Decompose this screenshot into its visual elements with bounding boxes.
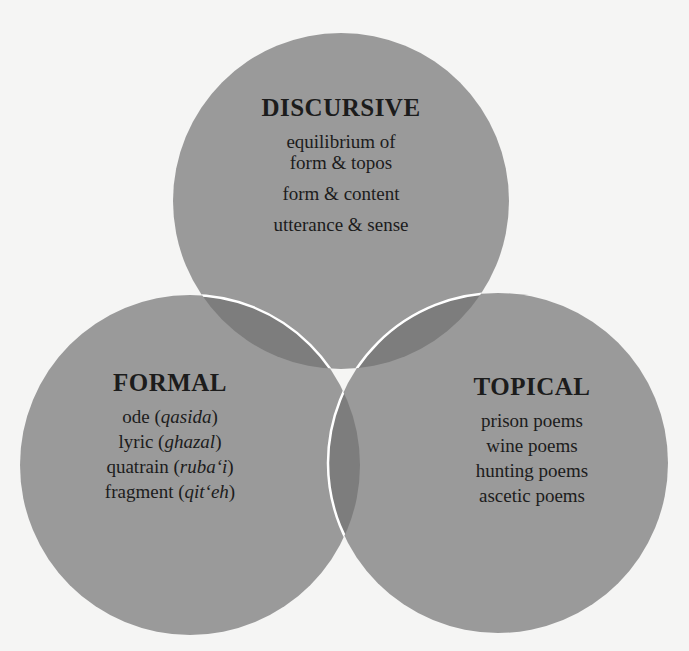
formal-title: FORMAL [40, 368, 300, 398]
discursive-title: DISCURSIVE [191, 93, 491, 123]
formal-item: lyric (ghazal) [40, 429, 300, 454]
topical-title: TOPICAL [420, 372, 644, 402]
topical-item: ascetic poems [420, 483, 644, 508]
discursive-label: DISCURSIVE equilibrium of form & topos f… [191, 93, 491, 237]
discursive-item: form & content [191, 181, 491, 206]
topical-item: hunting poems [420, 458, 644, 483]
formal-item: ode (qasida) [40, 404, 300, 429]
discursive-item: utterance & sense [191, 212, 491, 237]
formal-label: FORMAL ode (qasida) lyric (ghazal) quatr… [40, 368, 300, 504]
topical-item: prison poems [420, 408, 644, 433]
topical-item: wine poems [420, 433, 644, 458]
formal-item: fragment (qit‘eh) [40, 479, 300, 504]
discursive-item: form & topos [191, 150, 491, 175]
formal-item: quatrain (ruba‘i) [40, 454, 300, 479]
topical-label: TOPICAL prison poems wine poems hunting … [420, 372, 644, 508]
